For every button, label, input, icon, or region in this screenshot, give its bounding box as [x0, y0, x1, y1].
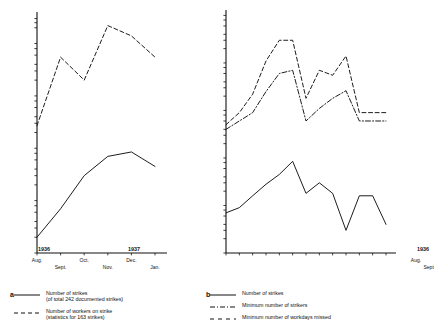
legend-label: Minimum number of workdays missed [242, 314, 331, 320]
x-axis-year-end: 1937 [128, 247, 140, 252]
legend-key-dashed-icon [210, 318, 236, 320]
x-axis-year-start: 1936 [38, 247, 50, 252]
legend-panel-a: a Number of strikes (of total 242 docume… [14, 291, 194, 322]
data-series-line [226, 161, 386, 230]
x-axis-tick-label: Aug. [32, 258, 42, 263]
legend-sublabel: (of total 242 documented strikes) [46, 296, 123, 302]
x-axis-tick-label: Nov. [103, 265, 113, 270]
legend-key-dashed-icon [14, 312, 40, 314]
chart-panel-b: 100,00080,00060,00040,00030,00020,00010,… [190, 0, 434, 285]
legend-label: Number of strikes [242, 290, 284, 296]
legend-label: Minimum number of strikers [242, 302, 307, 308]
chart-panel-a: 30,00025,00020,00010,0008,0006,0004,0003… [0, 0, 200, 285]
data-series-line [37, 152, 155, 237]
legend-panel-b: b Number of strikes Minimum number of st… [210, 291, 430, 327]
x-axis-tick-label: Dec. [126, 258, 136, 263]
data-series-line [226, 40, 386, 124]
legend-item: Number of workers on strike (statistics … [14, 309, 194, 322]
data-series-line [226, 70, 386, 129]
strike-statistics-figure: 30,00025,00020,00010,0008,0006,0004,0003… [0, 0, 434, 333]
x-axis-tick-label: Jan. [150, 265, 159, 270]
legend-key-dashdot-icon [210, 306, 236, 308]
data-series-line [37, 26, 155, 126]
x-axis-tick-label: Oct. [80, 258, 89, 263]
legend-key-solid-icon [210, 294, 236, 296]
plot-area-b [190, 0, 434, 285]
x-axis-tick-label: Sept. [423, 265, 434, 270]
legend-key-solid-icon [14, 294, 40, 296]
plot-area-a [0, 0, 200, 285]
legend-item: Minimum number of workdays missed [210, 315, 430, 327]
x-axis-tick-label: Sept. [55, 265, 67, 270]
x-axis-tick-label: Aug. [411, 258, 421, 263]
legend-item: Number of strikes (of total 242 document… [14, 291, 194, 304]
legend-sublabel: (statistics for 163 strikes) [46, 314, 105, 320]
x-axis-year-start: 1936 [417, 247, 429, 252]
